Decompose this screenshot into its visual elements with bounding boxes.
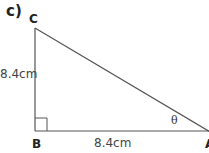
- vertex-a-label: A: [205, 137, 209, 151]
- vertex-b-label: B: [32, 137, 41, 151]
- angle-theta-label: θ: [171, 114, 178, 127]
- vertex-c-label: C: [29, 12, 38, 26]
- side-cb-length: 8.4cm: [0, 67, 37, 81]
- side-ba-length: 8.4cm: [94, 136, 131, 150]
- hypotenuse-ca: [35, 28, 209, 133]
- part-label: c): [6, 2, 22, 20]
- right-angle-marker: [35, 118, 47, 131]
